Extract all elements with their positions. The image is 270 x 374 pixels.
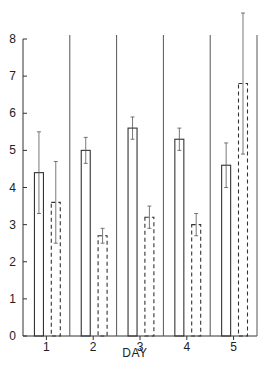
x-axis-label: DAY — [0, 346, 270, 360]
dashed-bar — [192, 225, 201, 336]
y-tick-label: 4 — [9, 181, 16, 195]
solid-bar — [175, 139, 184, 336]
y-tick-label: 0 — [9, 329, 16, 343]
y-tick-label: 8 — [9, 32, 16, 46]
y-tick-label: 3 — [9, 218, 16, 232]
bar-chart: 01234567812345 — [0, 0, 270, 374]
y-tick-label: 2 — [9, 255, 16, 269]
solid-bar — [128, 128, 137, 336]
dashed-bar — [145, 217, 154, 336]
y-tick-label: 1 — [9, 292, 16, 306]
dashed-bar — [98, 236, 107, 336]
solid-bar — [81, 150, 90, 336]
y-tick-label: 6 — [9, 106, 16, 120]
y-tick-label: 7 — [9, 69, 16, 83]
y-tick-label: 5 — [9, 143, 16, 157]
solid-bar — [222, 165, 231, 336]
